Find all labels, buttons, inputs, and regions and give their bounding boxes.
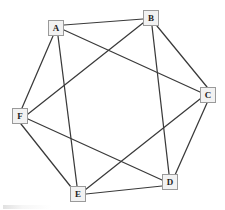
edge-B-D	[152, 26, 169, 174]
graph-node-F-label: F	[17, 112, 23, 121]
edge-E-F	[21, 124, 71, 187]
edge-D-E	[86, 186, 162, 194]
graph-node-A-label: A	[53, 24, 60, 33]
graph-node-C-label: C	[205, 91, 212, 100]
graph-node-E-label: E	[75, 190, 81, 199]
edge-A-C	[64, 30, 200, 92]
edge-C-D	[175, 103, 207, 175]
graph-node-A[interactable]: A	[48, 20, 64, 36]
graph-edges-layer	[0, 0, 225, 210]
graph-node-D-label: D	[167, 178, 174, 187]
graph-node-D[interactable]: D	[162, 174, 178, 190]
edge-D-F	[28, 119, 162, 180]
graph-node-C[interactable]: C	[200, 87, 216, 103]
graph-node-E[interactable]: E	[70, 186, 86, 202]
edge-C-E	[85, 99, 200, 190]
graph-node-B-label: B	[148, 14, 154, 23]
edge-B-F	[28, 23, 143, 114]
graph-figure: A B C D E F	[0, 0, 225, 210]
edge-A-B	[64, 19, 143, 25]
edge-A-E	[58, 36, 77, 186]
edge-B-C	[157, 26, 207, 87]
graph-node-B[interactable]: B	[143, 10, 159, 26]
graph-node-F[interactable]: F	[12, 108, 28, 124]
